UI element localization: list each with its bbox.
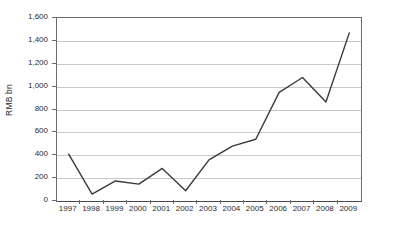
x-axis-tick-label: 2002 bbox=[176, 205, 194, 213]
line-chart: RMB bn 02004006008001,0001,2001,4001,600… bbox=[0, 0, 401, 235]
x-axis-tick-mark bbox=[313, 200, 314, 204]
x-axis-tick-mark bbox=[243, 200, 244, 204]
y-axis-tick-mark bbox=[52, 40, 56, 41]
y-axis-tick-label: 1,600 bbox=[28, 13, 48, 21]
x-axis-tick-label: 2003 bbox=[199, 205, 217, 213]
x-axis-tick-label: 1998 bbox=[82, 205, 100, 213]
y-axis-tick-mark bbox=[52, 17, 56, 18]
x-axis-tick-mark bbox=[150, 200, 151, 204]
x-axis-tick-mark bbox=[126, 200, 127, 204]
y-axis-tick-label: 1,000 bbox=[28, 82, 48, 90]
y-axis-tick-mark bbox=[52, 109, 56, 110]
y-axis-tick-mark bbox=[52, 200, 56, 201]
x-axis-tick-label: 2004 bbox=[222, 205, 240, 213]
y-axis-tick-mark bbox=[52, 63, 56, 64]
x-axis-tick-label: 1997 bbox=[59, 205, 77, 213]
x-axis-tick-mark bbox=[337, 200, 338, 204]
x-axis-tick-mark bbox=[196, 200, 197, 204]
x-axis-tick-mark bbox=[220, 200, 221, 204]
x-axis-tick-mark bbox=[290, 200, 291, 204]
y-axis-tick-label: 0 bbox=[44, 196, 48, 204]
x-axis-tick-label: 2000 bbox=[129, 205, 147, 213]
y-axis-tick-label: 1,400 bbox=[28, 36, 48, 44]
y-axis-tick-label: 400 bbox=[35, 150, 48, 158]
x-axis-tick-label: 2001 bbox=[152, 205, 170, 213]
y-axis-tick-labels: 02004006008001,0001,2001,4001,600 bbox=[16, 0, 52, 235]
y-axis-tick-label: 200 bbox=[35, 173, 48, 181]
x-axis-tick-mark bbox=[79, 200, 80, 204]
x-axis-tick-label: 2005 bbox=[246, 205, 264, 213]
x-axis-tick-mark bbox=[173, 200, 174, 204]
y-axis-tick-mark bbox=[52, 86, 56, 87]
x-axis-tick-label: 1999 bbox=[106, 205, 124, 213]
x-axis-tick-mark bbox=[103, 200, 104, 204]
x-axis-tick-label: 2009 bbox=[339, 205, 357, 213]
y-axis-tick-label: 800 bbox=[35, 105, 48, 113]
series-polyline bbox=[69, 33, 350, 194]
x-axis-tick-label: 2006 bbox=[269, 205, 287, 213]
y-axis-tick-mark bbox=[52, 131, 56, 132]
y-axis-tick-mark bbox=[52, 154, 56, 155]
y-axis-tick-mark bbox=[52, 177, 56, 178]
y-axis-tick-label: 1,200 bbox=[28, 59, 48, 67]
x-axis-tick-mark bbox=[266, 200, 267, 204]
x-axis-tick-label: 2007 bbox=[293, 205, 311, 213]
y-axis-tick-label: 600 bbox=[35, 127, 48, 135]
y-axis-title-label: RMB bn bbox=[4, 84, 14, 116]
x-axis-tick-label: 2008 bbox=[316, 205, 334, 213]
series-line bbox=[57, 18, 361, 201]
x-axis-tick-labels: 1997199819992000200120022003200420052006… bbox=[0, 205, 401, 225]
plot-area bbox=[56, 17, 362, 202]
